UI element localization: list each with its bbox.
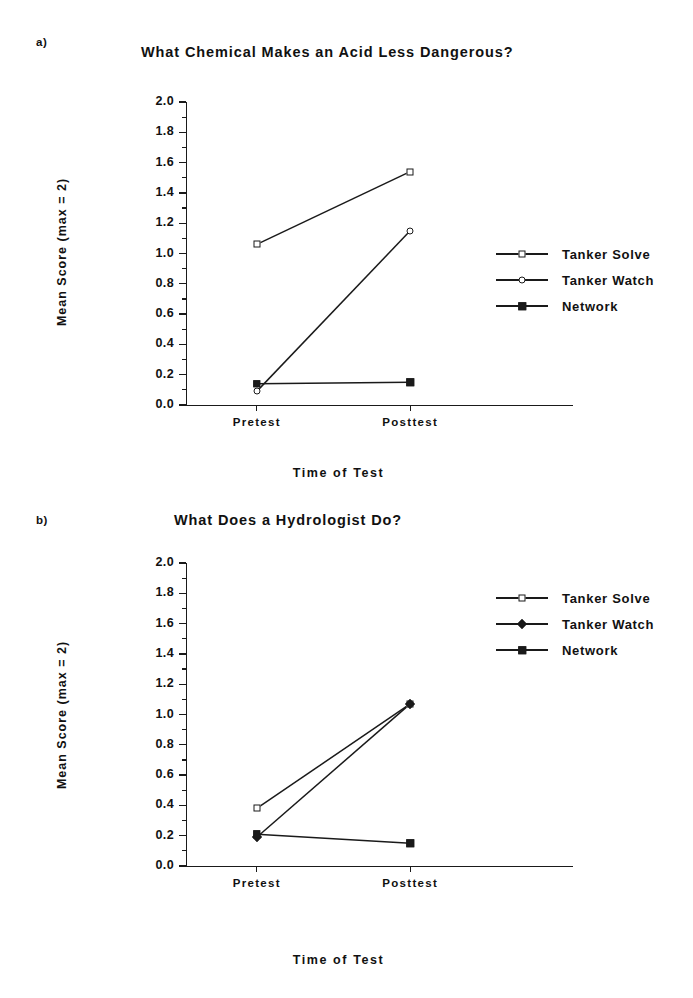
y-tick-minor	[182, 298, 186, 299]
y-axis-title-a: Mean Score (max = 2)	[55, 177, 69, 327]
y-tick-major	[179, 714, 186, 715]
y-tick-major	[179, 744, 186, 745]
y-tick-major	[179, 313, 186, 314]
data-point-tanker-watch-posttest	[407, 227, 414, 234]
chart-panel-b: b) What Does a Hydrologist Do? Mean Scor…	[0, 498, 693, 998]
y-tick-major	[179, 774, 186, 775]
y-tick-label: 1.4	[130, 185, 174, 199]
x-tick-label-pretest: Pretest	[192, 416, 322, 428]
legend-label: Tanker Solve	[562, 591, 650, 606]
y-tick-major	[179, 562, 186, 563]
legend-item-network[interactable]: Network	[496, 293, 654, 319]
plot-frame-b	[186, 563, 491, 866]
y-tick-minor	[182, 820, 186, 821]
panel-tag-a: a)	[36, 36, 47, 48]
y-tick-minor	[182, 668, 186, 669]
y-tick-major	[179, 253, 186, 254]
y-tick-minor	[182, 699, 186, 700]
y-axis-line	[186, 102, 187, 405]
data-point-network-posttest	[406, 840, 414, 848]
y-tick-label: 1.6	[130, 155, 174, 169]
x-axis-line	[186, 866, 573, 867]
y-tick-minor	[182, 638, 186, 639]
panel-title-b: What Does a Hydrologist Do?	[174, 512, 402, 528]
y-tick-minor	[182, 207, 186, 208]
y-axis-line	[186, 563, 187, 866]
chart-panel-a: a) What Chemical Makes an Acid Less Dang…	[0, 0, 693, 498]
y-tick-major	[179, 684, 186, 685]
legend-key-swatch	[496, 244, 548, 264]
y-tick-major	[179, 101, 186, 102]
y-tick-major	[179, 805, 186, 806]
panel-tag-b: b)	[36, 514, 48, 526]
legend-label: Network	[562, 299, 618, 314]
data-point-tanker-solve-posttest	[407, 168, 414, 175]
legend-item-network[interactable]: Network	[496, 637, 654, 663]
y-tick-minor	[182, 389, 186, 390]
y-tick-minor	[182, 268, 186, 269]
x-tick-label-posttest: Posttest	[345, 416, 475, 428]
x-tick	[410, 866, 411, 872]
y-tick-major	[179, 162, 186, 163]
plot-frame-a	[186, 102, 491, 405]
data-point-network-pretest	[253, 830, 261, 838]
y-tick-major	[179, 835, 186, 836]
data-point-network-posttest	[406, 379, 414, 387]
legend-key-swatch	[496, 614, 548, 634]
y-tick-label: 0.2	[130, 367, 174, 381]
figure-page: a) What Chemical Makes an Acid Less Dang…	[0, 0, 693, 998]
legend-item-tanker-watch[interactable]: Tanker Watch	[496, 611, 654, 637]
legend-key-swatch	[496, 640, 548, 660]
legend-item-tanker-solve[interactable]: Tanker Solve	[496, 241, 654, 267]
legend-label: Network	[562, 643, 618, 658]
y-tick-label: 1.0	[130, 707, 174, 721]
legend-marker-filled-square	[518, 646, 526, 654]
y-tick-label: 0.8	[130, 737, 174, 751]
x-tick-label-posttest: Posttest	[345, 877, 475, 889]
x-tick-label-pretest: Pretest	[192, 877, 322, 889]
y-tick-minor	[182, 578, 186, 579]
y-tick-label: 0.0	[130, 397, 174, 411]
y-axis-title-b: Mean Score (max = 2)	[55, 640, 69, 790]
y-tick-minor	[182, 729, 186, 730]
data-point-tanker-watch-pretest	[253, 388, 260, 395]
x-tick	[410, 405, 411, 411]
legend-label: Tanker Solve	[562, 247, 650, 262]
y-tick-major	[179, 593, 186, 594]
y-tick-major	[179, 374, 186, 375]
y-tick-minor	[182, 238, 186, 239]
y-tick-label: 1.2	[130, 215, 174, 229]
data-point-tanker-solve-pretest	[253, 805, 260, 812]
y-tick-label: 1.2	[130, 676, 174, 690]
legend-label: Tanker Watch	[562, 617, 654, 632]
y-tick-label: 0.4	[130, 797, 174, 811]
data-point-network-pretest	[253, 380, 261, 388]
y-tick-minor	[182, 759, 186, 760]
legend-key-swatch	[496, 296, 548, 316]
legend-a: Tanker SolveTanker WatchNetwork	[496, 241, 654, 319]
y-tick-label: 1.8	[130, 585, 174, 599]
legend-marker-filled-square	[518, 302, 526, 310]
legend-item-tanker-solve[interactable]: Tanker Solve	[496, 585, 654, 611]
y-tick-major	[179, 132, 186, 133]
legend-marker-open-square	[519, 251, 526, 258]
y-tick-label: 1.8	[130, 124, 174, 138]
y-tick-label: 0.6	[130, 767, 174, 781]
y-tick-major	[179, 865, 186, 866]
legend-marker-filled-diamond	[517, 619, 527, 629]
y-tick-minor	[182, 117, 186, 118]
x-axis-title-a: Time of Test	[186, 466, 491, 480]
legend-marker-open-circle	[519, 277, 526, 284]
y-tick-minor	[182, 790, 186, 791]
x-axis-title-b: Time of Test	[186, 953, 491, 967]
y-tick-label: 1.6	[130, 616, 174, 630]
panel-title-a: What Chemical Makes an Acid Less Dangero…	[141, 44, 514, 60]
legend-item-tanker-watch[interactable]: Tanker Watch	[496, 267, 654, 293]
legend-marker-open-square	[519, 595, 526, 602]
plot-area-a	[186, 102, 491, 405]
y-tick-major	[179, 344, 186, 345]
legend-label: Tanker Watch	[562, 273, 654, 288]
y-tick-label: 0.8	[130, 276, 174, 290]
y-tick-minor	[182, 329, 186, 330]
plot-area-b	[186, 563, 491, 866]
